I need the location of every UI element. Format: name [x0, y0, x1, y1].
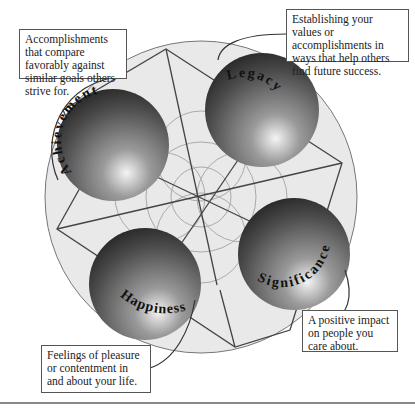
callout-achievement: Accomplishments that compare favorably a… [19, 29, 127, 79]
sphere-happiness[interactable]: Happiness [89, 228, 201, 340]
bottom-divider [0, 402, 415, 404]
sphere-significance[interactable]: Significance [238, 198, 350, 310]
callout-significance: A positive impact on people you care abo… [302, 310, 398, 352]
callout-happiness: Feelings of pleasure or contentment in a… [41, 345, 151, 393]
callout-legacy: Establishing your values or accomplishme… [286, 9, 409, 62]
